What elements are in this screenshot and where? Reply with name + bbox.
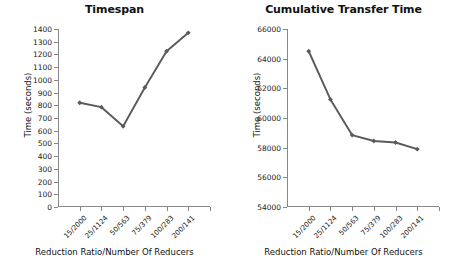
series-line	[309, 51, 418, 149]
data-series	[58, 29, 210, 207]
x-axis-tick	[210, 207, 211, 211]
y-axis-tick-label: 100	[38, 190, 52, 199]
x-axis-tick	[417, 207, 418, 211]
x-axis-tick	[80, 207, 81, 211]
x-axis-tick	[396, 207, 397, 211]
x-axis-tick	[374, 207, 375, 211]
y-axis-tick-label: 500	[38, 139, 52, 148]
y-axis-tick-label: 300	[38, 164, 52, 173]
y-axis-tick-label: 900	[38, 88, 52, 97]
series-line	[80, 33, 189, 126]
x-axis-tick-label: 50/563	[109, 214, 132, 237]
chart-panel-timespan: Timespan Time (seconds) 0100200300400500…	[0, 0, 229, 273]
chart-panel-cumulative-transfer-time: Cumulative Transfer Time Time (seconds) …	[229, 0, 458, 273]
data-series	[287, 29, 439, 207]
y-axis-tick-label: 60000	[257, 114, 281, 123]
x-axis-tick	[167, 207, 168, 211]
y-axis-label: Time (seconds)	[23, 65, 33, 145]
chart-title: Timespan	[0, 3, 229, 16]
chart-title: Cumulative Transfer Time	[229, 3, 458, 16]
data-point-marker	[77, 100, 82, 105]
y-axis-tick-label: 1000	[33, 75, 52, 84]
y-axis-tick	[54, 207, 58, 208]
x-axis-label: Reduction Ratio/Number Of Reducers	[0, 247, 229, 257]
data-point-marker	[415, 147, 420, 152]
y-axis-tick-label: 62000	[257, 84, 281, 93]
y-axis-tick-label: 54000	[257, 203, 281, 212]
x-axis-tick	[352, 207, 353, 211]
x-axis-tick	[330, 207, 331, 211]
y-axis-label: Time (seconds)	[252, 65, 262, 145]
y-axis-tick-label: 1100	[33, 63, 52, 72]
y-axis-tick-label: 200	[38, 177, 52, 186]
figure-container: Timespan Time (seconds) 0100200300400500…	[0, 0, 458, 273]
y-axis-tick-label: 0	[47, 203, 52, 212]
y-axis-tick-label: 1200	[33, 50, 52, 59]
y-axis-tick	[283, 207, 287, 208]
plot-area: 5400056000580006000062000640006600015/20…	[287, 29, 439, 207]
x-axis-tick	[309, 207, 310, 211]
y-axis-tick-label: 700	[38, 114, 52, 123]
y-axis-tick-label: 1400	[33, 25, 52, 34]
x-axis-tick	[101, 207, 102, 211]
y-axis-tick-label: 600	[38, 126, 52, 135]
data-point-marker	[371, 139, 376, 144]
y-axis-tick-label: 400	[38, 152, 52, 161]
x-axis-tick-label: 50/563	[338, 214, 361, 237]
x-axis-tick	[439, 207, 440, 211]
y-axis-tick-label: 66000	[257, 25, 281, 34]
y-axis-tick-label: 1300	[33, 37, 52, 46]
x-axis-tick	[123, 207, 124, 211]
x-axis-label: Reduction Ratio/Number Of Reducers	[229, 247, 458, 257]
y-axis-tick-label: 56000	[257, 173, 281, 182]
y-axis-tick-label: 64000	[257, 54, 281, 63]
x-axis-tick	[188, 207, 189, 211]
x-axis-tick	[145, 207, 146, 211]
y-axis-tick-label: 800	[38, 101, 52, 110]
data-point-marker	[393, 140, 398, 145]
y-axis-tick-label: 58000	[257, 143, 281, 152]
plot-area: 0100200300400500600700800900100011001200…	[58, 29, 210, 207]
